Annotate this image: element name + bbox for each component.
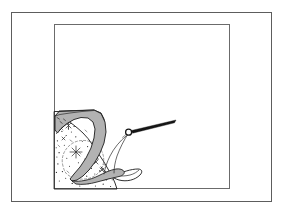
figure-root — [0, 0, 283, 211]
needle-pivot-ring — [126, 129, 132, 135]
illustration-canvas — [0, 0, 283, 211]
inner-plate-border — [55, 25, 230, 189]
needle-pointer — [123, 120, 177, 137]
tether-curve — [114, 134, 128, 173]
